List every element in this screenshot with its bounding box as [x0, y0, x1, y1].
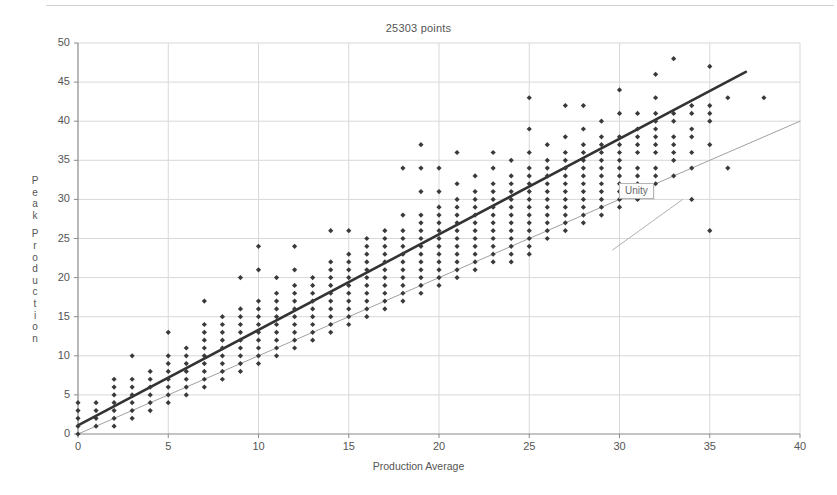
- top-divider: [46, 5, 834, 6]
- y-axis-label-char: k: [28, 210, 42, 222]
- unity-leader-line: [612, 199, 682, 250]
- y-axis-label-char: o: [28, 321, 42, 333]
- y-tick-label: 10: [30, 349, 70, 361]
- y-tick-label: 50: [30, 36, 70, 48]
- y-axis-label-char: c: [28, 286, 42, 298]
- y-axis-label-char: t: [28, 298, 42, 310]
- x-tick-label: 15: [329, 440, 369, 452]
- unity-annotation-label[interactable]: Unity: [619, 183, 654, 199]
- y-tick-label: 35: [30, 153, 70, 165]
- y-tick-label: 45: [30, 75, 70, 87]
- y-tick-label: 20: [30, 271, 70, 283]
- y-axis-label-char: n: [28, 333, 42, 345]
- y-tick-label: 15: [30, 310, 70, 322]
- y-axis-label-char: [28, 221, 42, 228]
- x-tick-label: 35: [690, 440, 730, 452]
- chart-page: 25303 points Peak Production 05101520253…: [0, 0, 837, 495]
- chart-title: 25303 points: [0, 22, 837, 34]
- y-tick-label: 30: [30, 192, 70, 204]
- x-tick-label: 10: [239, 440, 279, 452]
- y-axis-label-char: o: [28, 252, 42, 264]
- x-tick-label: 0: [58, 440, 98, 452]
- x-axis-label: Production Average: [0, 460, 837, 472]
- y-tick-label: 0: [30, 427, 70, 439]
- scatter-plot-svg: [78, 43, 800, 434]
- y-tick-label: 5: [30, 388, 70, 400]
- x-tick-label: 30: [600, 440, 640, 452]
- data-points: [75, 56, 766, 437]
- x-tick-label: 20: [419, 440, 459, 452]
- x-tick-label: 40: [780, 440, 820, 452]
- y-tick-label: 25: [30, 232, 70, 244]
- y-tick-label: 40: [30, 114, 70, 126]
- x-tick-label: 5: [148, 440, 188, 452]
- x-tick-label: 25: [509, 440, 549, 452]
- y-axis-label-char: P: [28, 175, 42, 187]
- plot-area: [78, 43, 800, 434]
